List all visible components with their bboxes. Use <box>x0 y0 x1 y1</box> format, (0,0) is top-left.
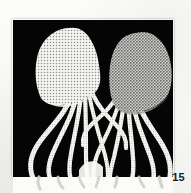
scanned-page: 15 <box>0 0 191 193</box>
jellyfish-artwork <box>13 20 173 185</box>
right-jellyfish-bell <box>109 32 171 115</box>
page-number: 15 <box>172 172 185 183</box>
left-jellyfish-bell <box>36 28 101 107</box>
tentacle-overhang <box>13 177 173 193</box>
